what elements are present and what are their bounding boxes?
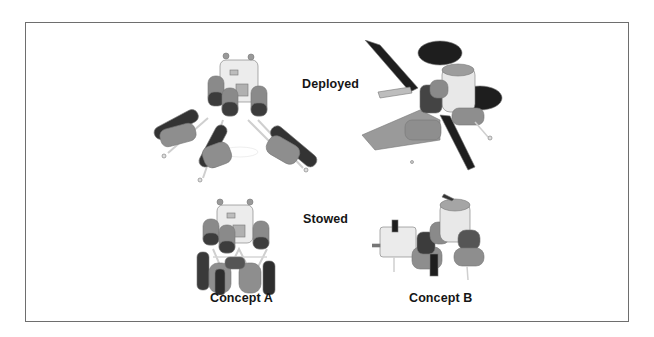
concept-b-stowed-illustration <box>372 192 490 287</box>
concept-a-stowed-illustration <box>195 197 285 295</box>
row-label-deployed: Deployed <box>302 77 359 91</box>
concept-a-deployed-illustration <box>148 48 323 193</box>
row-label-stowed: Stowed <box>303 212 348 226</box>
figure-frame <box>25 22 629 322</box>
column-label-concept-b: Concept B <box>409 291 472 305</box>
column-label-concept-a: Concept A <box>210 291 273 305</box>
concept-b-deployed-illustration <box>360 40 510 210</box>
